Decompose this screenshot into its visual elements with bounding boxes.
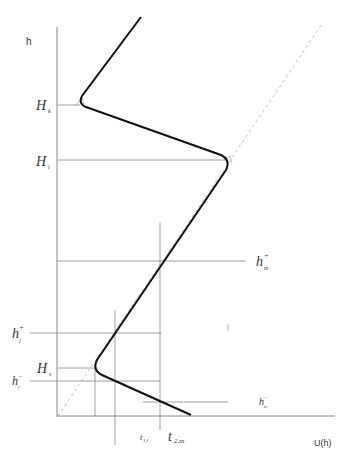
t2m-label: t 2,m [168, 429, 184, 445]
y-axis-label: h [26, 36, 32, 47]
svg-text:h: h [12, 326, 19, 341]
svg-text:i: i [48, 164, 50, 170]
svg-text:−: − [264, 395, 267, 400]
t1l-label: t 1,l [140, 433, 149, 444]
dashed-reference-line [58, 24, 322, 416]
hm-minus-label: h − m [259, 395, 267, 409]
svg-text:t: t [168, 429, 173, 444]
svg-text:H: H [35, 98, 47, 113]
Hi-label: H i [35, 154, 50, 170]
svg-text:s: s [49, 371, 52, 377]
svg-text:1,l: 1,l [143, 438, 149, 444]
svg-text:H: H [36, 361, 48, 376]
U-curve [81, 17, 228, 415]
hm-plus-label: h + m [256, 252, 269, 271]
svg-text:−: − [18, 373, 22, 379]
Hs-label: H s [36, 361, 52, 377]
svg-text:+: + [19, 324, 24, 332]
Hk-label: H k [35, 98, 51, 114]
svg-text:m: m [264, 404, 267, 409]
svg-text:m: m [264, 265, 269, 271]
hl-minus-label: h − l [12, 373, 22, 390]
svg-text:h: h [256, 254, 263, 269]
svg-text:l: l [18, 385, 20, 390]
hl-plus-label: h + l [12, 324, 24, 344]
svg-text:k: k [48, 108, 51, 114]
svg-text:2,m: 2,m [174, 437, 184, 445]
x-axis-label: U(h) [314, 438, 332, 448]
svg-text:+: + [264, 252, 269, 260]
svg-text:l: l [19, 338, 21, 344]
svg-text:H: H [35, 154, 47, 169]
diagram-canvas: h U(h) H k H i H s h + l h − l h + m h −… [0, 0, 342, 460]
